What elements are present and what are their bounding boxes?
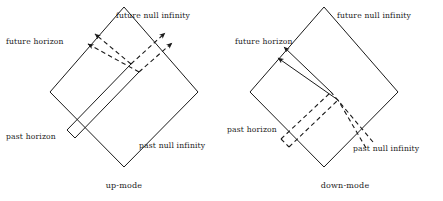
down-mode-solid-rays [278, 47, 338, 100]
label-future-null-infinity: future null infinity [116, 12, 190, 20]
penrose-diagram-figure: future horizon future null infinity past… [0, 0, 443, 201]
solid-ray-2 [75, 72, 139, 138]
dashed-ray-ph-cap [281, 139, 289, 147]
down-mode-drawing [221, 0, 442, 201]
label-future-horizon: future horizon [6, 38, 64, 46]
solid-ray-1 [67, 64, 131, 130]
label-past-null-infinity: past null infinity [353, 145, 419, 153]
edge-past-horizon [50, 92, 124, 167]
dashed-ray-pn-1 [331, 92, 373, 142]
label-past-null-infinity: past null infinity [139, 142, 205, 150]
label-future-null-infinity: future null infinity [337, 12, 411, 20]
panel-up-mode: future horizon future null infinity past… [0, 0, 221, 201]
caption-up-mode: up-mode [86, 181, 162, 190]
dashed-ray-ph-2 [289, 100, 338, 147]
solid-arrow-ray-1 [284, 47, 331, 92]
down-mode-past-horizon-rays [281, 92, 338, 147]
up-mode-solid-rays [67, 64, 139, 138]
down-mode-diamond-outline [250, 7, 398, 167]
caption-down-mode: down-mode [303, 181, 387, 190]
panel-down-mode: future horizon future null infinity past… [221, 0, 442, 201]
down-mode-past-null-rays [331, 92, 373, 148]
dashed-ray-pn-2 [338, 100, 366, 148]
label-future-horizon: future horizon [235, 38, 293, 46]
edge-past-null-infinity [124, 92, 198, 167]
up-mode-drawing [0, 0, 221, 201]
dashed-reflected-ray-2 [88, 44, 139, 72]
solid-ray-cap [67, 130, 75, 138]
label-past-horizon: past horizon [227, 126, 277, 134]
dashed-transmitted-ray-2 [139, 43, 172, 72]
dashed-reflected-ray-1 [95, 34, 131, 64]
label-past-horizon: past horizon [6, 133, 56, 141]
dashed-ray-ph-1 [281, 92, 331, 139]
